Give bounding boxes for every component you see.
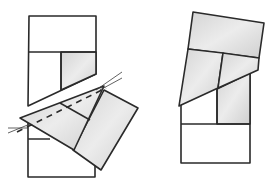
left-upper-shaded-cell: [61, 52, 96, 90]
left-figure: [8, 16, 138, 177]
right-figure: [179, 12, 264, 163]
dissection-illustration: [0, 0, 277, 190]
diagram-canvas: [0, 0, 277, 190]
guide-line: [96, 72, 122, 90]
